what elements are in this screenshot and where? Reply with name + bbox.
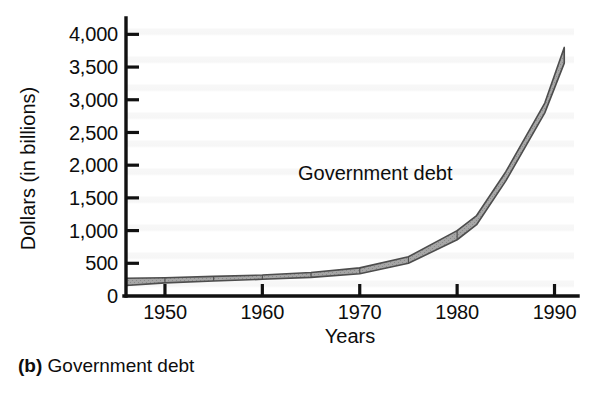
y-axis-tick-label: 4,000 [10,23,118,46]
figure-caption: (b) Government debt [18,355,194,377]
x-axis-tick-label: 1960 [240,301,284,324]
x-axis-tick-label: 1950 [143,301,187,324]
x-axis-title: Years [126,325,574,348]
figure-caption-text: Government debt [48,355,195,376]
y-axis-title: Dollars (in billions) [17,49,40,289]
figure-caption-tag: (b) [18,355,42,376]
figure-government-debt: 05001,0001,5002,0002,5003,0003,5004,000 … [0,0,609,399]
x-axis-tick-label: 1970 [338,301,382,324]
series-annotation-government-debt: Government debt [298,162,453,185]
x-axis-tick-label: 1990 [533,301,577,324]
chart-axes [124,18,578,296]
x-axis-tick-label: 1980 [435,301,479,324]
